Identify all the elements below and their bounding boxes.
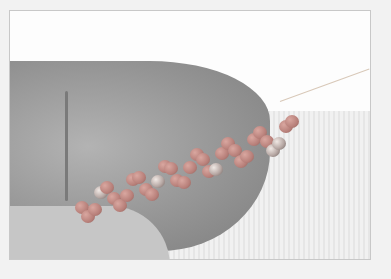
- bead: [88, 203, 102, 216]
- bead: [145, 188, 159, 201]
- bead: [177, 176, 191, 189]
- bead: [164, 162, 178, 175]
- bead: [209, 163, 223, 176]
- thread: [280, 69, 370, 102]
- photo-frame: [9, 10, 371, 260]
- bead: [120, 189, 134, 202]
- finger-crease: [65, 91, 68, 201]
- bead: [196, 153, 210, 166]
- bead: [272, 137, 286, 150]
